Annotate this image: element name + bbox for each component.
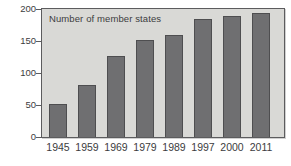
x-tick-label-1997: 1997 xyxy=(188,141,218,154)
y-tick-label-50: 50 xyxy=(2,99,36,111)
x-tick-label-1969: 1969 xyxy=(101,141,131,154)
y-tick-label-200: 200 xyxy=(2,3,36,15)
bar-1997 xyxy=(194,19,212,137)
bar-1969 xyxy=(107,56,125,137)
bar-1959 xyxy=(78,85,96,137)
x-tick-label-1959: 1959 xyxy=(72,141,102,154)
bar-1989 xyxy=(165,35,183,137)
plot-area: Number of member states xyxy=(41,8,285,138)
y-tick-mark xyxy=(36,73,41,74)
x-tick-label-1979: 1979 xyxy=(130,141,160,154)
x-tick-label-1989: 1989 xyxy=(159,141,189,154)
bar-chart-figure: Number of member states 0501001502001945… xyxy=(0,0,291,166)
x-tick-label-1945: 1945 xyxy=(43,141,73,154)
y-tick-label-0: 0 xyxy=(2,131,36,143)
y-tick-mark xyxy=(36,105,41,106)
y-tick-mark xyxy=(36,137,41,138)
chart-title: Number of member states xyxy=(49,13,161,24)
bar-1945 xyxy=(49,104,67,137)
y-tick-label-100: 100 xyxy=(2,67,36,79)
bar-1979 xyxy=(136,40,154,137)
bar-2011 xyxy=(252,13,270,137)
bar-2000 xyxy=(223,16,241,137)
x-tick-label-2000: 2000 xyxy=(217,141,247,154)
x-tick-label-2011: 2011 xyxy=(246,141,276,154)
y-tick-label-150: 150 xyxy=(2,35,36,47)
y-tick-mark xyxy=(36,41,41,42)
y-tick-mark xyxy=(36,9,41,10)
